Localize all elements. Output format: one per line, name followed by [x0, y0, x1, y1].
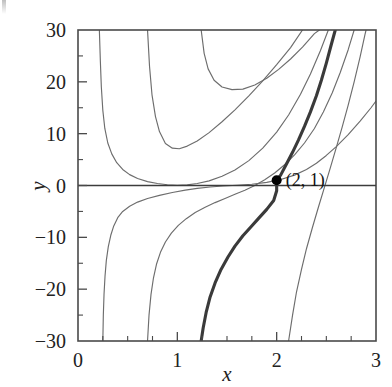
curve-solution-curve-2	[148, 30, 303, 149]
figure-container: 0123−30−20−100102030 y x (2, 1)	[0, 0, 392, 387]
y-tick-label--20: −20	[35, 278, 66, 300]
curve-solution-curve-4	[103, 101, 376, 341]
y-tick-label--30: −30	[35, 330, 66, 352]
curve-solution-curve-1	[99, 30, 328, 185]
y-tick-label-10: 10	[46, 123, 66, 145]
y-tick-label-30: 30	[46, 19, 66, 41]
axis-tick-labels-layer: 0123−30−20−100102030	[35, 19, 381, 371]
annotations-layer: (2, 1)	[272, 170, 325, 191]
x-axis-title: x	[221, 362, 232, 386]
data-point-label: (2, 1)	[286, 170, 325, 191]
x-tick-label-2: 2	[272, 349, 282, 371]
y-tick-label-20: 20	[46, 71, 66, 93]
x-tick-label-3: 3	[371, 349, 381, 371]
x-tick-label-1: 1	[172, 349, 182, 371]
x-tick-label-0: 0	[73, 349, 83, 371]
plot-canvas: 0123−30−20−100102030 y x (2, 1)	[0, 0, 392, 387]
y-tick-label-0: 0	[56, 175, 66, 197]
data-point-marker	[272, 175, 282, 185]
axis-ticks-layer	[78, 56, 351, 341]
y-tick-label--10: −10	[35, 226, 66, 248]
y-axis-title: y	[26, 181, 50, 193]
curve-solution-curve-3	[201, 30, 319, 90]
